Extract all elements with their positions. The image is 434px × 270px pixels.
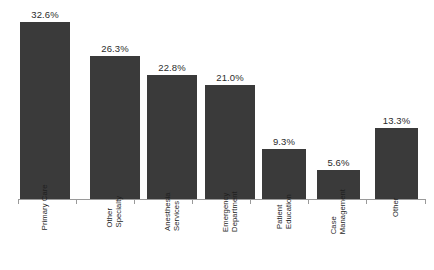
x-axis-label-text: Case Management	[330, 189, 347, 234]
x-axis-label-emergency-department: Emergency Department	[205, 203, 255, 269]
x-axis-label-text: Patient Education	[275, 194, 292, 229]
bar-group: 5.6%	[317, 0, 360, 200]
bar[interactable]	[147, 75, 197, 200]
bar-group: 13.3%	[375, 0, 418, 200]
bar-value-label: 5.6%	[327, 157, 349, 168]
label-line-2: Department	[230, 191, 239, 232]
bar-value-label: 13.3%	[383, 115, 410, 126]
x-axis-label-text: Other Specialty	[106, 196, 123, 228]
bar[interactable]	[20, 22, 70, 200]
bar-value-label: 21.0%	[216, 72, 243, 83]
x-axis-label-text: Other	[392, 198, 401, 218]
x-axis-label-primary-care: Primary Care	[20, 203, 70, 269]
bar-group: 26.3%	[90, 0, 140, 200]
label-line-1: Other	[105, 208, 114, 228]
bar[interactable]	[262, 149, 306, 200]
bar[interactable]	[205, 85, 255, 200]
bar-value-label: 9.3%	[273, 136, 295, 147]
bar-group: 22.8%	[147, 0, 197, 200]
label-line-1: Other	[391, 198, 400, 218]
x-axis-label-case-management: Case Management	[317, 203, 360, 269]
x-axis-label-text: Primary Care	[41, 184, 50, 230]
x-axis-labels: Primary Care Other Specialty Anesthesia …	[0, 203, 434, 270]
x-axis-label-patient-education: Patient Education	[262, 203, 306, 269]
bar[interactable]	[375, 128, 418, 200]
label-line-1: Emergency	[220, 193, 229, 232]
bar-value-label: 32.6%	[31, 9, 58, 20]
label-line-1: Patient	[274, 205, 283, 229]
label-line-2: Specialty	[115, 196, 124, 228]
label-line-2: Services	[172, 192, 181, 231]
label-line-2: Management	[339, 189, 348, 234]
x-axis-label-anesthesia-services: Anesthesia Services	[147, 203, 197, 269]
bar[interactable]	[90, 56, 140, 200]
x-axis-label-text: Anesthesia Services	[163, 192, 180, 231]
bar-value-label: 26.3%	[101, 43, 128, 54]
bar-group: 32.6%	[20, 0, 70, 200]
bar-value-label: 22.8%	[158, 62, 185, 73]
label-line-1: Primary Care	[40, 184, 49, 230]
bar-group: 21.0%	[205, 0, 255, 200]
label-line-1: Anesthesia	[162, 192, 171, 231]
label-line-2: Education	[284, 194, 293, 229]
bar-group: 9.3%	[262, 0, 306, 200]
bar-chart: 32.6% 26.3% 22.8% 21.0% 9.3% 5.6%	[0, 0, 434, 270]
label-line-1: Case	[329, 216, 338, 234]
x-axis-label-other-specialty: Other Specialty	[90, 203, 140, 269]
x-axis-label-text: Emergency Department	[221, 191, 238, 232]
plot-area: 32.6% 26.3% 22.8% 21.0% 9.3% 5.6%	[0, 0, 434, 200]
x-axis-label-other: Other	[375, 203, 418, 269]
